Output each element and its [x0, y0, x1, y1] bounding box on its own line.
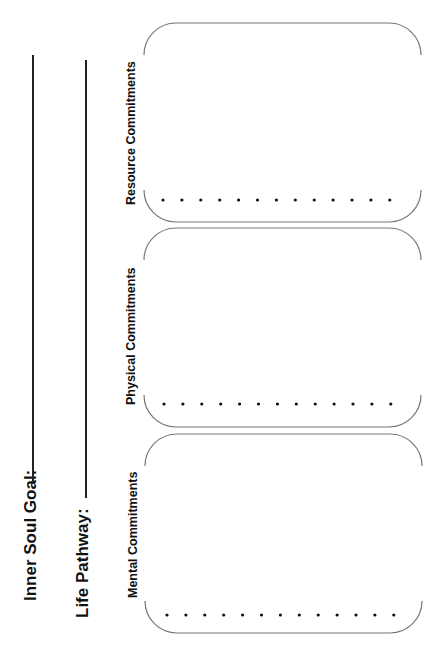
bullet-dot: [294, 198, 297, 201]
bullet-dot: [276, 402, 279, 405]
bullet-dot: [317, 613, 320, 616]
bullet-dot: [184, 613, 187, 616]
bullet-dot: [200, 402, 203, 405]
bullet-dot: [295, 402, 298, 405]
bullet-dot: [238, 402, 241, 405]
bullet-dot: [256, 198, 259, 201]
bullet-dot: [392, 613, 395, 616]
bullet-dot: [222, 613, 225, 616]
bullet-dot: [165, 613, 168, 616]
bullet-dot: [162, 402, 165, 405]
bullet-dot: [332, 198, 335, 201]
bullet-dot: [350, 198, 353, 201]
bullet-dot: [336, 613, 339, 616]
bullet-dot: [369, 198, 372, 201]
commitment-boxes: [0, 0, 441, 658]
bullet-dot: [218, 198, 221, 201]
bullet-dot: [388, 198, 391, 201]
bullet-dot: [351, 402, 354, 405]
mental-commitments-box[interactable]: [145, 434, 422, 633]
bullet-dot: [180, 198, 183, 201]
bullet-dot: [199, 198, 202, 201]
bullet-dot: [260, 613, 263, 616]
bullet-dot: [219, 402, 222, 405]
bullet-dot: [370, 402, 373, 405]
bullet-dot: [203, 613, 206, 616]
physical-commitments-box[interactable]: [144, 228, 421, 427]
bullet-dot: [237, 198, 240, 201]
bullet-dot: [279, 613, 282, 616]
bullet-dot: [275, 198, 278, 201]
resource-commitments-box[interactable]: [144, 23, 421, 222]
bullet-dot: [241, 613, 244, 616]
bullet-dot: [373, 613, 376, 616]
bullet-dot: [298, 613, 301, 616]
bullet-dot: [161, 198, 164, 201]
bullet-dot: [333, 402, 336, 405]
bullet-dot: [354, 613, 357, 616]
bullet-dot: [257, 402, 260, 405]
bullet-dot: [313, 198, 316, 201]
bullet-dot: [181, 402, 184, 405]
bullet-dot: [314, 402, 317, 405]
bullet-dots: [161, 198, 395, 616]
bullet-dot: [389, 402, 392, 405]
